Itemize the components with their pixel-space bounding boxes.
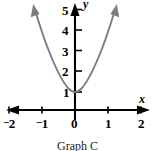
y-tick-label-5: 5 — [62, 4, 69, 17]
x-axis — [6, 105, 150, 114]
curve-left-arrowhead — [31, 4, 40, 17]
figure-caption: Graph C — [0, 140, 155, 151]
x-tick-digits: 1 — [42, 116, 49, 131]
curve-right-arrowhead — [110, 4, 119, 17]
x-tick-label-neg1: −1 — [36, 117, 48, 130]
y-axis — [70, 3, 79, 120]
x-tick-label-0: 0 — [71, 117, 78, 130]
x-tick-label-neg2: −2 — [3, 117, 15, 130]
x-tick-digits: 2 — [9, 116, 16, 131]
x-axis-left-arrowhead — [6, 105, 19, 114]
y-axis-label: y — [83, 0, 88, 10]
x-tick-label-1: 1 — [105, 117, 112, 130]
coordinate-plane — [0, 0, 155, 151]
graph-figure: 1 2 3 4 5 −2 −1 0 1 2 x y Graph C — [0, 0, 155, 151]
y-tick-label-4: 4 — [62, 24, 69, 37]
y-tick-label-2: 2 — [62, 65, 69, 78]
x-axis-right-arrowhead — [137, 105, 150, 114]
y-axis-ticks — [75, 10, 82, 93]
y-tick-label-1: 1 — [63, 86, 70, 99]
x-axis-label: x — [139, 93, 145, 105]
x-tick-label-2: 2 — [138, 117, 145, 130]
y-tick-label-3: 3 — [62, 45, 69, 58]
